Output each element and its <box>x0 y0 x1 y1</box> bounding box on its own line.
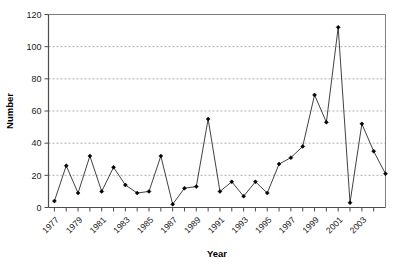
y-tick-label-40: 40 <box>31 138 41 148</box>
y-axis-title: Number <box>4 93 15 129</box>
x-tick-label-1991: 1991 <box>206 215 227 236</box>
x-tick-label-1983: 1983 <box>111 215 132 236</box>
x-axis-title: Year <box>207 248 227 259</box>
x-tick-label-1989: 1989 <box>182 215 203 236</box>
x-tick-label-1993: 1993 <box>229 215 250 236</box>
x-tick-label-1995: 1995 <box>253 215 274 236</box>
x-tick-label-1999: 1999 <box>300 215 321 236</box>
line-chart: 0204060801001201977197919811983198519871… <box>0 0 404 264</box>
x-tick-label-1997: 1997 <box>277 215 298 236</box>
y-tick-label-20: 20 <box>31 171 41 181</box>
x-tick-label-2001: 2001 <box>324 215 345 236</box>
y-tick-label-60: 60 <box>31 106 41 116</box>
x-tick-label-2003: 2003 <box>348 215 369 236</box>
x-tick-label-1985: 1985 <box>135 215 156 236</box>
chart-container: 0204060801001201977197919811983198519871… <box>0 0 404 264</box>
y-tick-label-0: 0 <box>36 203 41 213</box>
y-tick-label-80: 80 <box>31 74 41 84</box>
y-tick-label-120: 120 <box>26 10 41 20</box>
x-tick-label-1977: 1977 <box>40 215 61 236</box>
x-tick-label-1981: 1981 <box>87 215 108 236</box>
y-tick-label-100: 100 <box>26 42 41 52</box>
x-tick-label-1987: 1987 <box>158 215 179 236</box>
x-tick-label-1979: 1979 <box>64 215 85 236</box>
